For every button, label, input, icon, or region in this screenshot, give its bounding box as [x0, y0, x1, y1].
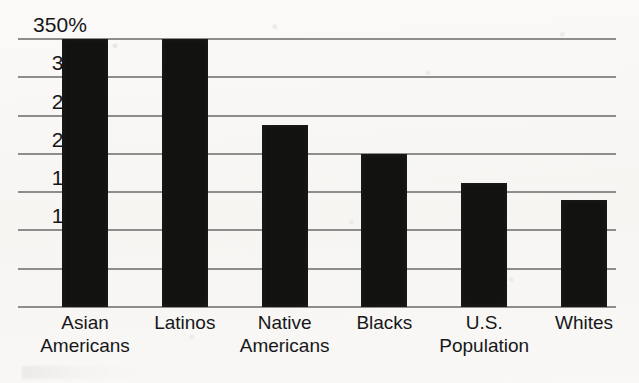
bar-asian-americans: [62, 39, 108, 307]
x-axis-category-labels: AsianAmericansLatinosNativeAmericansBlac…: [18, 311, 616, 375]
x-tick-label-whites: Whites: [509, 311, 639, 334]
x-tick-label-line2: Americans: [210, 334, 360, 357]
y-tick-label-350: 350%: [33, 14, 87, 35]
bar-native-americans: [262, 125, 308, 307]
bar-whites: [561, 200, 607, 307]
bars-layer: [18, 39, 616, 307]
x-tick-label-line2: Population: [409, 334, 559, 357]
bar-blacks: [361, 154, 407, 307]
bar-chart-figure: 350%300250200150100500 AsianAmericansLat…: [0, 0, 639, 383]
bar-u-s-population: [461, 183, 507, 307]
x-tick-label-line1: Blacks: [356, 312, 412, 333]
x-tick-label-line1: Asian: [61, 312, 109, 333]
plot-area: [18, 39, 616, 307]
x-tick-label-line1: U.S.: [466, 312, 503, 333]
x-tick-label-line1: Native: [258, 312, 312, 333]
bar-latinos: [162, 39, 208, 307]
x-tick-label-line1: Whites: [555, 312, 613, 333]
x-tick-label-line1: Latinos: [154, 312, 215, 333]
x-tick-label-line2: Americans: [10, 334, 160, 357]
